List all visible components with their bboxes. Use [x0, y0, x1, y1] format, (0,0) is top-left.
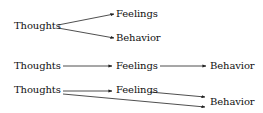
node-thoughts-2: Thoughts [14, 60, 61, 72]
node-thoughts-3: Thoughts [14, 84, 61, 96]
arrow-thoughts-behavior-1 [58, 28, 114, 38]
node-feelings-1: Feelings [116, 8, 158, 20]
node-behavior-1: Behavior [116, 32, 161, 44]
arrow-thoughts-feelings-1 [58, 14, 114, 25]
node-feelings-2: Feelings [116, 60, 158, 72]
node-behavior-3: Behavior [210, 96, 255, 108]
node-thoughts-1: Thoughts [14, 20, 61, 32]
node-feelings-3: Feelings [116, 84, 158, 96]
arrow-feelings-behavior-3 [150, 92, 205, 97]
node-behavior-2: Behavior [210, 60, 255, 72]
